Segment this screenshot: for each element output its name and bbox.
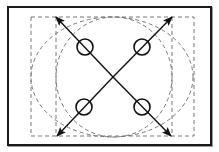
diagram-canvas [0, 0, 219, 152]
arrows [56, 17, 172, 136]
arrow-top-right [113, 17, 172, 77]
arrow-bottom-left [57, 77, 113, 136]
arrow-top-left [56, 17, 113, 77]
arrow-bottom-right [113, 77, 171, 136]
outer-ellipse [31, 17, 193, 137]
